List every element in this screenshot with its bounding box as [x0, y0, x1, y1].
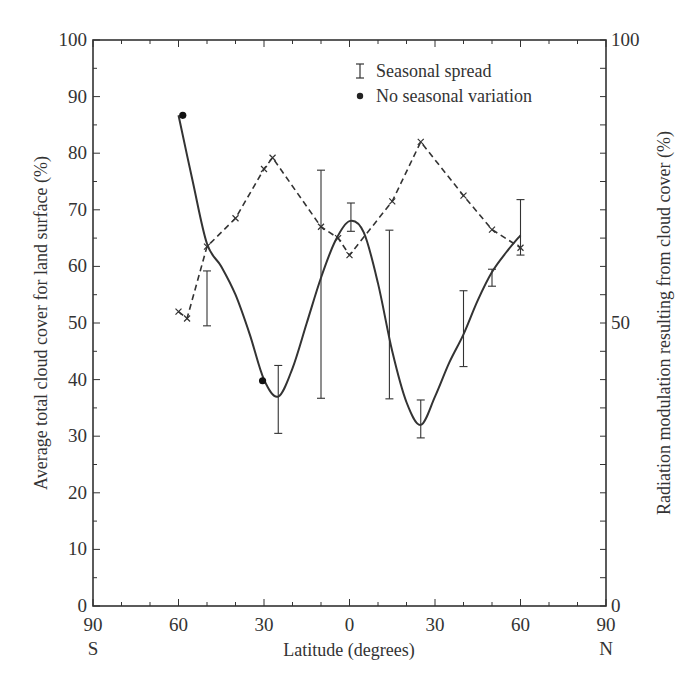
axis-ticks — [93, 40, 606, 606]
legend: Seasonal spread No seasonal variation — [356, 61, 532, 106]
legend-label-no-seasonal-variation: No seasonal variation — [376, 86, 532, 106]
error-bar — [347, 203, 355, 231]
x-tick-label: 60 — [511, 614, 530, 635]
chart: 9060300306090 0102030405060708090100 050… — [0, 0, 699, 692]
plot-border — [93, 40, 606, 606]
x-tick-label: 30 — [255, 614, 274, 635]
x-marker — [270, 155, 276, 161]
left-y-tick-label: 30 — [68, 425, 87, 446]
left-y-tick-label: 0 — [78, 595, 88, 616]
radiation-modulation-markers — [176, 139, 524, 322]
x-axis-title: Latitude (degrees) — [283, 640, 414, 661]
x-tick-label: 90 — [597, 614, 616, 635]
right-y-tick-label: 100 — [611, 29, 640, 50]
radiation-modulation-line — [179, 142, 521, 319]
error-bar — [203, 271, 211, 326]
right-y-axis-tick-labels: 050100 — [611, 29, 640, 616]
left-y-tick-label: 40 — [68, 369, 87, 390]
plot-frame — [93, 40, 606, 606]
right-y-tick-label: 50 — [611, 312, 630, 333]
hemisphere-label-north: N — [599, 638, 613, 659]
no-seasonal-variation-dot — [179, 112, 186, 119]
left-y-tick-label: 70 — [68, 199, 87, 220]
left-y-tick-label: 10 — [68, 538, 87, 559]
x-marker — [489, 227, 495, 233]
error-bar — [385, 230, 393, 399]
x-tick-label: 30 — [426, 614, 445, 635]
left-y-tick-label: 20 — [68, 482, 87, 503]
error-bar — [274, 365, 282, 433]
x-marker — [347, 252, 353, 258]
x-marker — [418, 139, 424, 145]
left-y-tick-label: 60 — [68, 255, 87, 276]
cloud-cover-line — [179, 115, 521, 425]
no-seasonal-variation-dot — [259, 377, 266, 384]
left-y-axis-title: Average total cloud cover for land surfa… — [31, 156, 52, 490]
x-marker — [176, 309, 182, 315]
left-y-tick-label: 90 — [68, 86, 87, 107]
left-y-tick-label: 80 — [68, 142, 87, 163]
legend-error-bar-icon — [356, 64, 364, 78]
x-tick-label: 0 — [345, 614, 355, 635]
legend-label-seasonal-spread: Seasonal spread — [376, 61, 491, 81]
x-axis-tick-labels: 9060300306090 — [84, 614, 616, 635]
hemisphere-label-south: S — [88, 638, 99, 659]
left-y-tick-label: 50 — [68, 312, 87, 333]
x-marker — [389, 198, 395, 204]
x-marker — [261, 166, 267, 172]
x-tick-label: 60 — [169, 614, 188, 635]
x-marker — [233, 215, 239, 221]
right-y-axis-title: Radiation modulation resulting from clou… — [654, 131, 675, 515]
error-bar — [417, 400, 425, 438]
right-y-tick-label: 0 — [611, 595, 621, 616]
left-y-axis-tick-labels: 0102030405060708090100 — [59, 29, 88, 616]
legend-dot-icon — [357, 93, 363, 99]
left-y-tick-label: 100 — [59, 29, 88, 50]
x-tick-label: 90 — [84, 614, 103, 635]
x-marker — [461, 193, 467, 199]
